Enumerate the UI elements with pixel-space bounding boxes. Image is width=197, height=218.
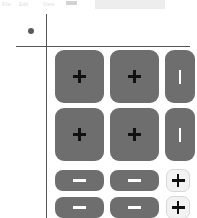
plus-icon: [73, 75, 86, 78]
plus-icon: [128, 75, 141, 78]
vertical-bar-icon: [179, 128, 182, 142]
minus-icon: [128, 206, 141, 209]
plus-icon: [172, 206, 185, 209]
button-r2c3-bar[interactable]: [165, 108, 195, 161]
plus-icon: [73, 133, 86, 136]
button-r1c1-plus[interactable]: [55, 50, 104, 103]
button-r4c2-minus[interactable]: [110, 197, 159, 218]
button-r3c2-minus[interactable]: [110, 170, 159, 191]
button-r3c1-minus[interactable]: [55, 170, 104, 191]
button-r1c3-bar[interactable]: [165, 50, 195, 103]
vertical-bar-icon: [179, 70, 182, 84]
minus-icon: [128, 179, 141, 182]
button-grid: [0, 0, 197, 218]
button-r4c3-plus[interactable]: [166, 196, 190, 218]
plus-icon: [128, 133, 141, 136]
button-r2c2-plus[interactable]: [110, 108, 159, 161]
button-r4c1-minus[interactable]: [55, 197, 104, 218]
button-r3c3-plus[interactable]: [166, 169, 190, 192]
plus-icon: [172, 179, 185, 182]
app-window: File Edit View: [0, 0, 197, 218]
minus-icon: [73, 206, 86, 209]
button-r2c1-plus[interactable]: [55, 108, 104, 161]
minus-icon: [73, 179, 86, 182]
button-r1c2-plus[interactable]: [110, 50, 159, 103]
